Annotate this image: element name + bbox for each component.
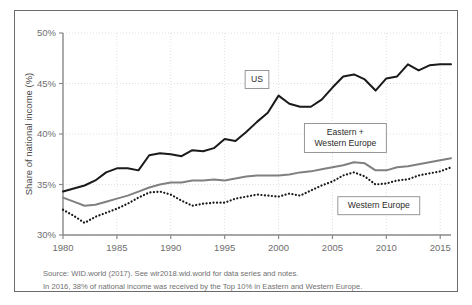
line-chart-svg: 30%35%40%45%50%1980198519901995200020052… (15, 11, 459, 293)
annotation-label-0: US (251, 74, 263, 84)
annotation-label-1: Western Europe (314, 138, 376, 148)
figure-container: 30%35%40%45%50%1980198519901995200020052… (14, 10, 458, 292)
chart-plot-area: 30%35%40%45%50%1980198519901995200020052… (15, 11, 459, 293)
annotation-label-1: Eastern + (327, 127, 364, 137)
x-tick-label: 2005 (322, 242, 343, 253)
x-tick-label: 1985 (106, 242, 127, 253)
y-tick-label: 30% (37, 229, 57, 240)
y-tick-label: 40% (37, 128, 57, 139)
y-tick-label: 50% (37, 27, 57, 38)
x-tick-label: 2015 (430, 242, 451, 253)
x-tick-label: 1995 (214, 242, 235, 253)
y-tick-label: 45% (37, 78, 57, 89)
source-note: Source: WID.world (2017). See wir2018.wi… (43, 267, 455, 280)
annotation-label-2: Western Europe (348, 200, 410, 210)
y-tick-label: 35% (37, 179, 57, 190)
footnote-block: Source: WID.world (2017). See wir2018.wi… (43, 267, 455, 293)
x-tick-label: 1990 (160, 242, 181, 253)
data-note: In 2016, 38% of national income was rece… (43, 280, 455, 293)
x-tick-label: 2010 (376, 242, 397, 253)
x-tick-label: 2000 (268, 242, 289, 253)
y-axis-title: Share of national income (%) (23, 73, 34, 196)
x-tick-label: 1980 (52, 242, 73, 253)
